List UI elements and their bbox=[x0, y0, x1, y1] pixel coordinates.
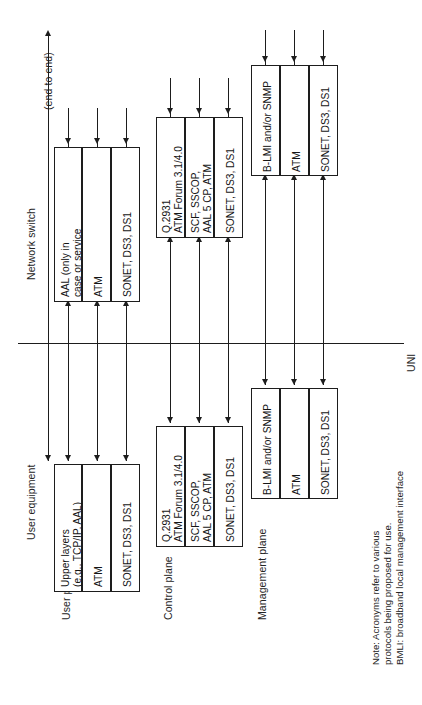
layer-label: ATM bbox=[291, 474, 303, 495]
layer-label: SONET, DS3, DS1 bbox=[225, 148, 237, 233]
arrow-down bbox=[225, 417, 231, 423]
layer-label: Q.2931ATM Forum 3.1/4.0 bbox=[161, 455, 184, 542]
layer-label: SCF, SSCOP,AAL 5 CP, ATM bbox=[190, 164, 213, 233]
arrow-down bbox=[320, 56, 326, 62]
arrow-down bbox=[167, 108, 173, 114]
layer-cell: SONET, DS3, DS1 bbox=[111, 464, 140, 592]
layer-cell: AAL (only incase or serviceinterworking) bbox=[54, 147, 82, 302]
layer-cell: ATM bbox=[280, 65, 309, 176]
layer-label: SONET, DS3, DS1 bbox=[122, 212, 134, 297]
arrow-down bbox=[291, 379, 297, 385]
layer-cell: SONET, DS3, DS1 bbox=[309, 388, 338, 499]
note-line-1: Note: Acronyms refer to various bbox=[370, 531, 383, 665]
arrow-down bbox=[123, 138, 129, 144]
arrow-down bbox=[196, 417, 202, 423]
diagram-canvas: Network switch User equipment (end to en… bbox=[0, 0, 422, 705]
arrow-down bbox=[65, 455, 71, 461]
end-to-end-line bbox=[48, 36, 49, 461]
arrow-down bbox=[225, 108, 231, 114]
layer-cell: SONET, DS3, DS1 bbox=[214, 426, 243, 547]
layer-cell: SONET, DS3, DS1 bbox=[309, 65, 338, 176]
label-uni: UNI bbox=[406, 354, 418, 372]
arrow-down bbox=[123, 455, 129, 461]
note-line-2: protocols being proposed for use. bbox=[382, 523, 395, 665]
arrow-down bbox=[94, 138, 100, 144]
uni-line bbox=[18, 343, 404, 344]
layer-cell: B-LMI and/or SNMP bbox=[251, 65, 280, 176]
label-user-equipment: User equipment bbox=[26, 464, 38, 540]
label-management-plane: Management plane bbox=[257, 529, 269, 621]
layer-cell: B-LMI and/or SNMP bbox=[251, 388, 280, 499]
layer-label: SONET, DS3, DS1 bbox=[225, 457, 237, 542]
end-to-end-arrow-up bbox=[45, 30, 51, 36]
layer-label: B-LMI and/or SNMP bbox=[262, 81, 274, 172]
layer-cell: SCF, SSCOP,AAL 5 CP, ATM bbox=[185, 426, 214, 547]
end-to-end-arrow-down bbox=[45, 455, 51, 461]
layer-cell: Q.2931ATM Forum 3.1/4.0 bbox=[156, 117, 185, 238]
label-network-switch: Network switch bbox=[26, 208, 38, 280]
note-line-3: BMLI: broadband local management interfa… bbox=[394, 471, 407, 665]
layer-cell: SONET, DS3, DS1 bbox=[214, 117, 243, 238]
layer-cell: SONET, DS3, DS1 bbox=[111, 147, 140, 302]
arrow-down bbox=[262, 56, 268, 62]
layer-cell: Q.2931ATM Forum 3.1/4.0 bbox=[156, 426, 185, 547]
layer-label: ATM bbox=[93, 566, 105, 587]
layer-label: SCF, SSCOP,AAL 5 CP, ATM bbox=[190, 473, 213, 542]
layer-label: ATM bbox=[93, 276, 105, 297]
layer-cell: ATM bbox=[82, 147, 111, 302]
layer-label: B-LMI and/or SNMP bbox=[262, 404, 274, 495]
layer-label: SONET, DS3, DS1 bbox=[320, 410, 332, 495]
layer-cell: ATM bbox=[82, 464, 111, 592]
arrow-down bbox=[167, 417, 173, 423]
arrow-down bbox=[291, 56, 297, 62]
layer-cell: ATM bbox=[280, 388, 309, 499]
layer-label: ATM bbox=[291, 151, 303, 172]
arrow-down bbox=[65, 138, 71, 144]
arrow-down bbox=[320, 379, 326, 385]
layer-label: Q.2931ATM Forum 3.1/4.0 bbox=[161, 146, 184, 233]
arrow-down bbox=[196, 108, 202, 114]
layer-label: SONET, DS3, DS1 bbox=[320, 87, 332, 172]
arrow-down bbox=[262, 379, 268, 385]
layer-cell: SCF, SSCOP,AAL 5 CP, ATM bbox=[185, 117, 214, 238]
layer-label: SONET, DS3, DS1 bbox=[122, 502, 134, 587]
layer-cell: Upper layers(e.g., TCP/IP, AAL) bbox=[54, 464, 82, 592]
layer-label: Upper layers(e.g., TCP/IP, AAL) bbox=[60, 502, 83, 587]
arrow-down bbox=[94, 455, 100, 461]
label-control-plane: Control plane bbox=[163, 556, 175, 620]
